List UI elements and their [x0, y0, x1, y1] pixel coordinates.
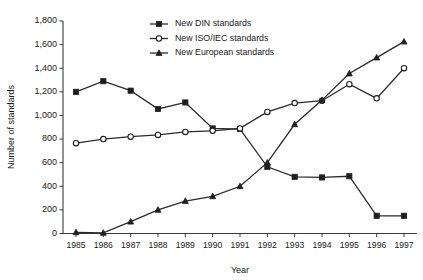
series-1-square-marker	[183, 100, 188, 105]
x-tick-label: 1989	[176, 240, 195, 250]
series-2-circle-marker	[374, 96, 379, 101]
line-chart: 02004006008001,0001,2001,4001,6001,800 1…	[0, 0, 423, 280]
series-2-circle-marker	[183, 129, 188, 134]
x-tick-label: 1995	[340, 240, 359, 250]
series-2-circle-marker	[101, 136, 106, 141]
y-tick-label: 1,000	[34, 110, 57, 120]
series-1-square-marker	[292, 174, 297, 179]
legend-label-1: New DIN standards	[175, 18, 252, 28]
x-tick-label: 1994	[312, 240, 331, 250]
chart-canvas: 02004006008001,0001,2001,4001,6001,800 1…	[0, 0, 423, 280]
series-2-circle-marker	[128, 134, 133, 139]
series-2-circle-marker	[401, 66, 406, 71]
series-1-square-marker	[73, 89, 78, 94]
x-tick-label: 1996	[367, 240, 386, 250]
series-1-square-marker	[155, 106, 160, 111]
x-tick-label: 1990	[203, 240, 222, 250]
series-line-1	[76, 81, 404, 216]
series-1-square-marker	[319, 175, 324, 180]
legend-item-2: New ISO/IEC standards	[150, 33, 269, 43]
y-tick-label: 600	[42, 157, 57, 167]
legend-item-3: New European standards	[150, 47, 275, 57]
data-series-group	[73, 38, 407, 235]
y-tick-label: 400	[42, 181, 57, 191]
y-axis-title: Number of standards	[6, 84, 16, 169]
series-2-circle-marker	[237, 126, 242, 131]
x-tick-label: 1985	[66, 240, 85, 250]
y-tick-label: 1,800	[34, 15, 57, 25]
x-tick-label: 1988	[148, 240, 167, 250]
series-1-square-marker	[347, 174, 352, 179]
y-tick-label: 200	[42, 204, 57, 214]
series-3-triangle-marker	[401, 38, 407, 44]
series-2-circle-marker	[265, 109, 270, 114]
legend-item-1: New DIN standards	[150, 18, 252, 28]
series-2-circle-marker	[210, 128, 215, 133]
series-3-triangle-marker	[374, 54, 380, 60]
y-axis-ticks: 02004006008001,0001,2001,4001,6001,800	[34, 15, 63, 238]
y-tick-label: 1,200	[34, 86, 57, 96]
x-axis-title: Year	[231, 265, 249, 275]
x-tick-label: 1986	[94, 240, 113, 250]
legend-2-circle-marker	[156, 36, 161, 41]
y-tick-label: 0	[52, 228, 57, 238]
series-1-square-marker	[401, 213, 406, 218]
legend-label-2: New ISO/IEC standards	[175, 33, 269, 43]
legend-1-square-marker	[156, 21, 161, 26]
y-tick-label: 1,400	[34, 63, 57, 73]
y-tick-label: 800	[42, 133, 57, 143]
series-3-triangle-marker	[346, 70, 352, 76]
series-1-square-marker	[101, 79, 106, 84]
series-2-circle-marker	[155, 132, 160, 137]
x-tick-label: 1992	[258, 240, 277, 250]
series-1-square-marker	[374, 213, 379, 218]
series-2	[73, 66, 406, 146]
series-1-square-marker	[128, 88, 133, 93]
series-1	[73, 79, 406, 219]
series-2-circle-marker	[292, 100, 297, 105]
series-2-circle-marker	[73, 140, 78, 145]
chart-legend: New DIN standardsNew ISO/IEC standardsNe…	[150, 18, 275, 57]
y-tick-label: 1,600	[34, 39, 57, 49]
x-tick-label: 1987	[121, 240, 140, 250]
x-tick-label: 1991	[230, 240, 249, 250]
x-tick-label: 1993	[285, 240, 304, 250]
legend-label-3: New European standards	[175, 47, 275, 57]
series-2-circle-marker	[347, 81, 352, 86]
x-tick-label: 1997	[394, 240, 413, 250]
x-axis-ticks: 1985198619871988198919901991199219931994…	[66, 234, 413, 250]
